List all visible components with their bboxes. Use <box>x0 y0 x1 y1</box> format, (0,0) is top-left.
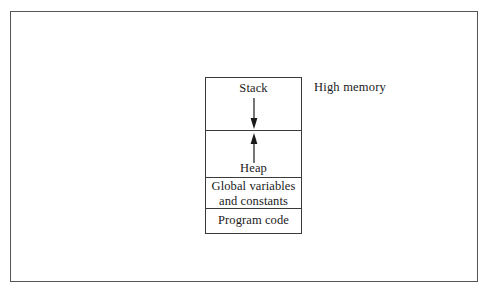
memory-segment-heap-label: Heap <box>206 161 301 175</box>
stack-growth-down-arrow-icon <box>248 98 259 129</box>
figure-frame: Stack Heap Global variables and <box>10 11 478 282</box>
memory-segment-stack: Stack <box>206 78 301 130</box>
memory-layout-diagram: Stack Heap Global variables and <box>205 77 302 234</box>
heap-growth-up-arrow-icon <box>248 133 259 163</box>
memory-segment-heap: Heap <box>206 130 301 177</box>
high-memory-annotation: High memory <box>314 80 386 95</box>
memory-segment-globals-label-line1: Global variables <box>206 179 301 194</box>
memory-segment-globals-label-line2: and constants <box>206 194 301 209</box>
memory-segment-globals-label: Global variables and constants <box>206 179 301 208</box>
memory-segment-program-code: Program code <box>206 208 301 233</box>
memory-segment-program-code-label: Program code <box>206 213 301 227</box>
memory-segment-globals: Global variables and constants <box>206 177 301 208</box>
memory-segment-stack-label: Stack <box>206 81 301 95</box>
